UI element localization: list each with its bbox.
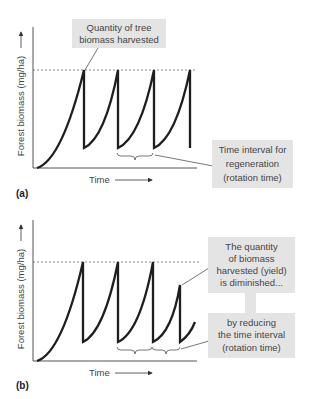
leader-line xyxy=(181,341,209,349)
biomass-curve xyxy=(37,262,195,361)
callout-text-line: Time interval for xyxy=(219,144,287,155)
leader-line xyxy=(155,155,213,166)
panel-label: (a) xyxy=(16,188,28,199)
callout-text-line: The quantity xyxy=(225,241,278,252)
interval-brace xyxy=(117,153,153,160)
callout-yield-diminished: The quantity of biomass harvested (yield… xyxy=(208,237,295,293)
y-axis-label: Forest biomass (mg/ha) xyxy=(15,249,26,349)
callout-text-line: regeneration xyxy=(226,158,279,169)
x-axis-label: Time xyxy=(89,174,110,185)
callout-text-line: Quantity of tree xyxy=(87,22,152,33)
x-axis-label: Time xyxy=(89,367,110,378)
y-axis-label: Forest biomass (mg/ha) xyxy=(15,56,26,156)
callout-time-interval: Time interval for regeneration (rotation… xyxy=(212,140,293,188)
callout-text-line: harvested (yield) xyxy=(216,265,286,276)
callout-quantity-harvested: Quantity of tree biomass harvested xyxy=(72,19,166,48)
panel-b: Forest biomass (mg/ha) The quantity of b… xyxy=(15,220,295,391)
leader-line xyxy=(85,48,98,70)
callout-text-line: the time interval xyxy=(218,329,285,340)
biomass-curve xyxy=(37,70,190,168)
y-axis-label-group: Forest biomass (mg/ha) xyxy=(15,32,26,156)
callout-connector xyxy=(245,293,256,313)
interval-brace xyxy=(152,347,180,354)
leader-line xyxy=(182,268,209,285)
callout-text-line: biomass harvested xyxy=(79,34,159,45)
callout-text-line: (rotation time) xyxy=(222,342,281,353)
diagram-canvas: Quantity of tree biomass harvested Fores… xyxy=(0,0,311,399)
panel-a: Quantity of tree biomass harvested Fores… xyxy=(15,19,293,199)
callout-text-line: is diminished... xyxy=(220,277,283,288)
panel-label: (b) xyxy=(16,380,29,391)
callout-text-line: of biomass xyxy=(229,253,275,264)
y-axis-label-group: Forest biomass (mg/ha) xyxy=(15,225,26,349)
callout-text-line: by reducing xyxy=(227,317,276,328)
callout-text-line: (rotation time) xyxy=(223,172,282,183)
callout-reducing-interval: by reducing the time interval (rotation … xyxy=(208,313,295,358)
interval-brace xyxy=(117,347,152,354)
